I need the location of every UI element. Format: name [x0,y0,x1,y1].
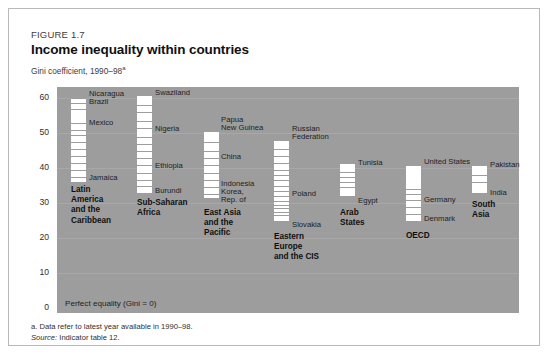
country-mark [71,109,86,110]
country-mark [204,187,219,188]
country-label: Mexico [89,118,113,127]
y-axis-tick-60: 60 [23,92,49,102]
country-label: New Guinea [221,123,263,132]
country-mark [274,208,289,209]
y-axis-tick-40: 40 [23,162,49,172]
country-label: Burundi [155,186,182,195]
country-mark [137,186,152,187]
country-mark [340,187,355,188]
country-label: China [221,152,241,161]
country-mark [472,182,487,183]
country-label: Ethiopia [155,161,183,170]
country-mark [274,140,289,141]
country-mark [137,95,152,96]
country-mark [274,156,289,157]
country-mark [406,194,421,195]
source-line: Source: Indicator table 12. [31,333,120,342]
figure-card: FIGURE 1.7 Income inequality within coun… [8,8,540,346]
country-label: Denmark [424,214,455,223]
y-axis-tick-20: 20 [23,232,49,242]
source-text: Indicator table 12. [57,333,119,342]
country-mark [71,142,86,143]
country-mark [204,173,219,174]
country-mark [274,205,289,206]
group-label: OECD [406,231,430,241]
country-mark [71,156,86,157]
y-axis-tick-10: 10 [23,267,49,277]
country-mark [274,163,289,164]
subtitle-text: Gini coefficient, 1990–98 [31,66,122,76]
gridline [57,273,519,274]
country-mark [274,186,289,187]
country-mark [340,172,355,173]
country-mark [406,207,421,208]
country-mark [71,123,86,124]
country-mark [274,215,289,216]
country-label: Brazil [89,97,108,106]
country-mark [71,130,86,131]
country-label: Pakistan [490,160,520,169]
range-bar [340,163,355,196]
country-label: Slovakia [292,220,321,229]
country-mark [274,180,289,181]
country-label: Egypt [358,196,378,205]
country-mark [274,191,289,192]
country-mark [340,182,355,183]
country-mark [406,200,421,201]
country-mark [71,135,86,136]
country-mark [137,144,152,145]
range-bar [204,131,219,198]
country-mark [137,121,152,122]
country-label: Swaziland [155,88,190,97]
y-axis-tick-0: 0 [23,302,49,312]
country-label: Germany [424,195,456,204]
range-bar [274,140,289,221]
range-bar [472,165,487,193]
country-mark [204,142,219,143]
range-bar [71,98,86,182]
group-label: Sub-SaharanAfrica [137,198,188,218]
range-bar [137,95,152,193]
group-label: SouthAsia [472,200,495,220]
country-mark [274,170,289,171]
footnote-a: a. Data refer to latest year available i… [31,322,193,331]
range-bar [406,165,421,221]
subtitle-superscript: a [122,65,125,71]
country-mark [71,163,86,164]
source-label: Source: [31,333,57,342]
figure-number: FIGURE 1.7 [31,29,85,40]
country-mark [137,151,152,152]
country-label: Federation [292,132,329,141]
country-label: Jamaica [89,173,118,182]
country-mark [71,177,86,178]
country-mark [71,170,86,171]
perfect-equality-label: Perfect equality (Gini = 0) [65,299,157,308]
y-axis-tick-30: 30 [23,197,49,207]
country-mark [204,158,219,159]
group-label: East Asiaand thePacific [204,208,241,239]
country-mark [406,189,421,190]
country-mark [274,201,289,202]
figure-subtitle: Gini coefficient, 1990–98a [31,65,126,76]
gridline [57,98,519,99]
country-label: Rep. of [221,195,246,204]
country-mark [204,180,219,181]
country-mark [137,180,152,181]
country-mark [137,137,152,138]
country-mark [204,194,219,195]
country-mark [274,175,289,176]
country-mark [204,151,219,152]
country-label: United States [424,157,470,166]
country-mark [274,196,289,197]
country-mark [340,177,355,178]
country-mark [204,165,219,166]
country-label: Poland [292,189,316,198]
group-label: EasternEuropeand the CIS [274,232,319,263]
country-label: Nigeria [155,124,179,133]
country-mark [274,212,289,213]
group-label: ArabStates [340,208,365,228]
country-mark [137,128,152,129]
country-mark [137,173,152,174]
country-mark [137,158,152,159]
group-label: LatinAmericaand theCaribbean [71,185,111,226]
